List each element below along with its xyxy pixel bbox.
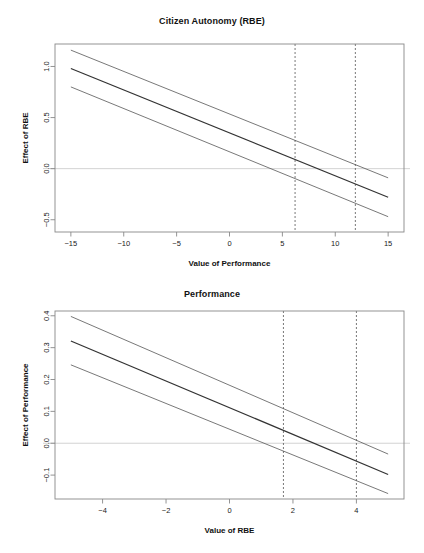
x-tick-label: −10 xyxy=(117,239,130,248)
plot-area-performance: −4−20240.40.30.20.10.0−0.1Value of RBEEf… xyxy=(0,280,424,553)
y-tick-label: 1.0 xyxy=(43,61,52,71)
y-tick-label: 0.5 xyxy=(43,112,52,122)
y-tick-label: 0.1 xyxy=(43,406,52,416)
series-line-lower-confidence-bound xyxy=(71,365,388,494)
x-tick-label: −5 xyxy=(172,239,181,248)
series-line-marginal-effect xyxy=(71,341,388,475)
y-tick-label: 0.0 xyxy=(43,163,52,173)
series-line-lower-confidence-bound xyxy=(71,87,388,217)
x-tick-label: −2 xyxy=(162,506,171,515)
y-tick-label: 0.4 xyxy=(43,311,52,321)
x-tick-label: 2 xyxy=(291,506,295,515)
series-line-upper-confidence-bound xyxy=(71,316,388,454)
y-tick-label: 0.3 xyxy=(43,342,52,352)
y-axis-title: Effect of RBE xyxy=(21,112,30,164)
y-axis-title: Effect of Performance xyxy=(21,363,30,447)
y-tick-label: −0.1 xyxy=(43,468,52,483)
y-tick-label: 0.0 xyxy=(43,438,52,448)
chart-panel-citizen-autonomy: Citizen Autonomy (RBE) −15−10−50510151.0… xyxy=(0,0,424,280)
plot-box-frame xyxy=(55,44,404,232)
x-axis-title: Value of RBE xyxy=(205,526,255,535)
x-axis-title: Value of Performance xyxy=(189,259,271,268)
x-tick-label: −15 xyxy=(64,239,77,248)
x-tick-label: −4 xyxy=(98,506,107,515)
x-tick-label: 4 xyxy=(354,506,358,515)
y-tick-label: −0.5 xyxy=(43,212,52,227)
figure-container: Citizen Autonomy (RBE) −15−10−50510151.0… xyxy=(0,0,424,553)
x-tick-label: 10 xyxy=(331,239,339,248)
plot-box-frame xyxy=(55,311,404,499)
series-line-marginal-effect xyxy=(71,69,388,198)
x-tick-label: 5 xyxy=(280,239,284,248)
plot-area-citizen-autonomy: −15−10−50510151.00.50.0−0.5Value of Perf… xyxy=(0,0,424,280)
series-line-upper-confidence-bound xyxy=(71,50,388,178)
y-tick-label: 0.2 xyxy=(43,374,52,384)
x-tick-label: 0 xyxy=(227,506,231,515)
x-tick-label: 15 xyxy=(384,239,392,248)
x-tick-label: 0 xyxy=(227,239,231,248)
chart-panel-performance: Performance −4−20240.40.30.20.10.0−0.1Va… xyxy=(0,280,424,553)
